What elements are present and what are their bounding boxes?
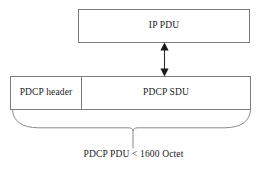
pdcp-sdu-label: PDCP SDU bbox=[143, 88, 189, 98]
pdcp-header-label: PDCP header bbox=[20, 88, 73, 98]
pdcp-pdu-row: PDCP header PDCP SDU bbox=[10, 76, 251, 110]
pdcp-sdu-cell: PDCP SDU bbox=[82, 77, 250, 109]
double-headed-vertical-arrow-icon bbox=[160, 43, 168, 77]
pdcp-header-cell: PDCP header bbox=[11, 77, 82, 109]
pdu-diagram: IP PDU PDCP header PDCP SDU PDCP PDU < bbox=[0, 0, 265, 171]
brace-caption-text: PDCP PDU < 1600 Octet bbox=[84, 149, 184, 159]
ip-pdu-label: IP PDU bbox=[149, 21, 179, 31]
ip-pdu-box: IP PDU bbox=[78, 9, 250, 43]
curly-brace-down-icon bbox=[13, 111, 251, 149]
brace-caption: PDCP PDU < 1600 Octet bbox=[0, 149, 265, 159]
